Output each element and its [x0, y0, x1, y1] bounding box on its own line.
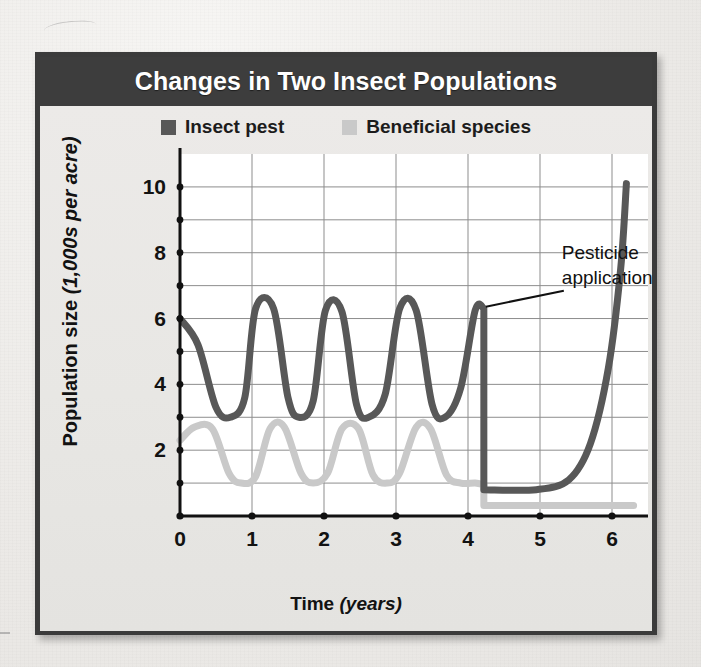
- y-tick-label: 2: [154, 438, 166, 461]
- y-tick-label: 4: [154, 372, 166, 395]
- y-axis-tick: [177, 282, 184, 289]
- x-tick-label: 5: [534, 527, 546, 550]
- legend-label-beneficial-species: Beneficial species: [366, 116, 531, 138]
- y-axis-tick: [177, 381, 184, 388]
- x-axis-tick: [320, 512, 327, 519]
- x-axis-tick-labels: 0123456: [174, 527, 618, 550]
- figure-title-bar: Changes in Two Insect Populations: [40, 57, 652, 106]
- scan-artifact: [44, 19, 97, 36]
- scan-edge-artifact: [0, 632, 10, 634]
- annotation-line-1: Pesticide: [562, 242, 639, 263]
- y-axis-tick: [177, 348, 184, 355]
- y-axis-tick: [177, 216, 184, 223]
- x-axis-title-unit: (years): [339, 593, 401, 614]
- x-tick-label: 0: [174, 527, 186, 550]
- chart-legend: Insect pest Beneficial species: [40, 116, 652, 138]
- x-axis-tick: [392, 512, 399, 519]
- y-axis-tick: [177, 184, 184, 191]
- x-axis-tick: [176, 512, 183, 519]
- y-tick-label: 8: [154, 241, 166, 264]
- legend-swatch-beneficial-icon: [342, 120, 357, 135]
- y-tick-label: 6: [154, 307, 166, 330]
- y-axis-tick-labels: 246810: [143, 175, 167, 461]
- plot-area-wrapper: 246810 0123456 Pesticideapplication: [40, 146, 652, 586]
- y-axis-tick: [177, 249, 184, 256]
- figure-body: Insect pest Beneficial species Populatio…: [40, 106, 652, 631]
- x-axis-title-main: Time: [290, 593, 334, 614]
- x-axis-tick: [608, 512, 615, 519]
- x-axis-tick: [536, 512, 543, 519]
- x-tick-label: 6: [606, 527, 618, 550]
- y-tick-label: 10: [143, 175, 166, 198]
- legend-swatch-pest-icon: [161, 120, 176, 135]
- x-tick-label: 3: [390, 527, 402, 550]
- legend-item-beneficial-species: Beneficial species: [342, 116, 531, 138]
- legend-item-insect-pest: Insect pest: [161, 116, 284, 138]
- y-axis-tick: [177, 480, 184, 487]
- x-axis-title: Time (years): [40, 593, 652, 615]
- x-axis-tick: [464, 512, 471, 519]
- legend-label-insect-pest: Insect pest: [185, 116, 284, 138]
- x-tick-label: 1: [246, 527, 258, 550]
- chart-title: Changes in Two Insect Populations: [135, 67, 557, 96]
- annotation-line-2: application: [562, 267, 652, 288]
- x-tick-label: 2: [318, 527, 330, 550]
- y-axis-tick: [177, 315, 184, 322]
- figure-container: Changes in Two Insect Populations Insect…: [35, 52, 657, 635]
- x-tick-label: 4: [462, 527, 474, 550]
- y-axis-tick: [177, 414, 184, 421]
- y-axis-tick: [177, 447, 184, 454]
- chart-plot: 246810 0123456 Pesticideapplication: [40, 146, 652, 586]
- x-axis-tick: [248, 512, 255, 519]
